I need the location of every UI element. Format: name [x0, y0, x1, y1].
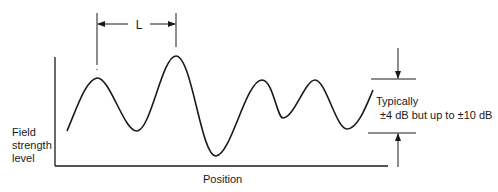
period-dimension: L	[97, 13, 176, 72]
svg-text:Field: Field	[12, 126, 36, 138]
variation-label-line1: Typically	[376, 95, 419, 107]
period-label: L	[136, 18, 143, 32]
x-axis-label: Position	[203, 173, 242, 185]
field-strength-curve	[67, 56, 373, 156]
svg-text:strength: strength	[12, 139, 52, 151]
variation-dimension: Typically ±4 dB but up to ±10 dB	[368, 48, 492, 167]
svg-text:level: level	[12, 152, 35, 164]
y-axis-label: Field strength level	[12, 126, 52, 164]
field-strength-diagram: L Typically ±4 dB but up to ±10 dB Field…	[0, 0, 498, 192]
variation-label-line2: ±4 dB but up to ±10 dB	[380, 109, 492, 121]
